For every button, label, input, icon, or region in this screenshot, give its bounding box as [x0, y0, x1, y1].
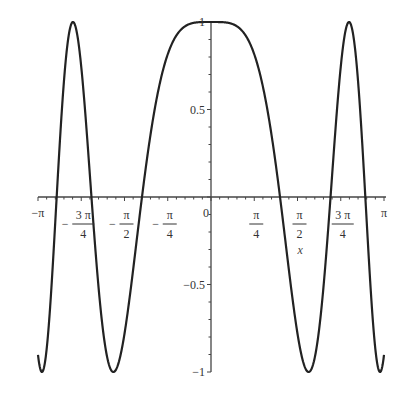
x-tick-numerator: π	[123, 208, 129, 222]
x-tick-numerator: 3 π	[335, 208, 350, 222]
axes	[38, 22, 386, 372]
x-tick-numerator: 3 π	[76, 208, 91, 222]
x-tick-label: π	[381, 206, 387, 220]
y-tick-label: 1	[199, 15, 205, 29]
x-tick-sign: −	[109, 217, 116, 231]
x-tick-label: 0	[203, 206, 209, 220]
y-tick-label: −0.5	[183, 278, 205, 292]
x-tick-denominator: 4	[167, 227, 173, 241]
x-tick-numerator: π	[167, 208, 173, 222]
x-tick-denominator: 4	[80, 227, 86, 241]
x-axis-title: x	[297, 243, 304, 257]
y-tick-label: −1	[192, 365, 205, 379]
x-tick-sign: −	[62, 217, 69, 231]
chart: −π3 π4−π2−π4−0π4π23 π4π10.5−0.5−1x	[0, 0, 416, 397]
x-tick-denominator: 2	[297, 227, 303, 241]
y-tick-label: 0.5	[190, 103, 205, 117]
x-tick-denominator: 4	[340, 227, 346, 241]
x-tick-denominator: 4	[253, 227, 259, 241]
x-tick-sign: −	[152, 217, 159, 231]
x-tick-denominator: 2	[123, 227, 129, 241]
x-tick-numerator: π	[253, 208, 259, 222]
x-tick-numerator: π	[296, 208, 302, 222]
x-tick-label: −π	[32, 206, 45, 220]
